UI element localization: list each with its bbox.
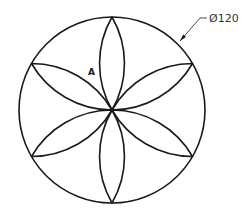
petal-1: [100, 17, 125, 110]
region-label-a: A: [88, 67, 95, 77]
diameter-dimension: Ø120: [209, 12, 239, 25]
petals-group: [31, 17, 192, 203]
flower-diagram: Ø120 A: [0, 0, 251, 213]
petal-4: [100, 110, 125, 203]
